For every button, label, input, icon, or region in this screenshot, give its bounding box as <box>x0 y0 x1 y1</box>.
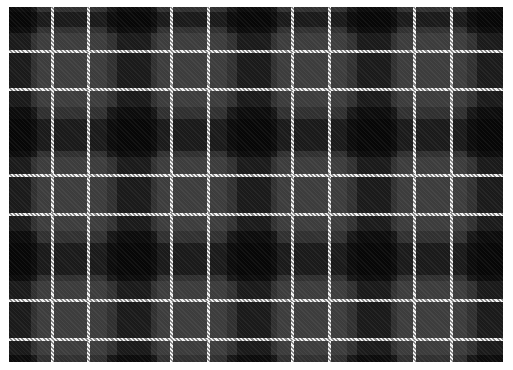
vertical-white-stripe <box>291 7 294 362</box>
horizontal-white-stripe <box>9 213 503 216</box>
vertical-white-stripe <box>51 7 54 362</box>
horizontal-white-stripe <box>9 299 503 302</box>
tartan-fabric <box>9 7 503 362</box>
vertical-white-stripe <box>413 7 416 362</box>
horizontal-white-stripe <box>9 338 503 341</box>
vertical-white-stripe <box>328 7 331 362</box>
twill-texture <box>9 7 503 362</box>
vertical-white-stripe <box>170 7 173 362</box>
vertical-white-stripe <box>450 7 453 362</box>
vertical-white-stripe <box>87 7 90 362</box>
horizontal-white-stripe <box>9 88 503 91</box>
vertical-white-stripe <box>207 7 210 362</box>
horizontal-white-stripe <box>9 50 503 53</box>
horizontal-white-stripe <box>9 174 503 177</box>
